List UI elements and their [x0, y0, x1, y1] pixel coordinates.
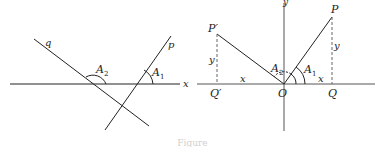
label-y-right: y: [333, 40, 340, 51]
label-Q: Q: [328, 87, 337, 100]
label-x-left-segment: x: [240, 73, 246, 84]
diagram-canvas: q p A1 A2 x y P P′ Q Q′ O A1 A2 x x y y: [0, 0, 385, 147]
label-y-axis: y: [282, 0, 289, 7]
left-figure: [10, 36, 180, 130]
label-p: p: [168, 39, 175, 50]
angle-arc-a1-right-inner: [291, 74, 296, 84]
line-p: [105, 36, 171, 130]
label-a2-right: A2: [270, 62, 283, 77]
figure-caption: Figure: [0, 138, 385, 147]
label-a1-right: A1: [303, 63, 316, 78]
label-x-right: x: [318, 73, 324, 84]
label-Q-prime: Q′: [210, 87, 222, 100]
right-figure: [197, 3, 375, 131]
label-a2-left: A2: [95, 63, 108, 78]
line-q: [34, 39, 149, 126]
label-x-left: x: [183, 78, 189, 89]
label-a1-left: A1: [151, 66, 164, 81]
label-origin: O: [278, 87, 287, 100]
label-P: P: [330, 3, 339, 16]
label-P-prime: P′: [207, 22, 218, 35]
label-y-left: y: [208, 54, 215, 65]
label-q: q: [45, 37, 51, 48]
